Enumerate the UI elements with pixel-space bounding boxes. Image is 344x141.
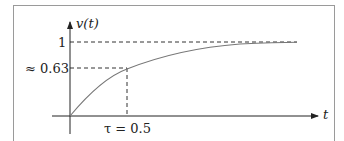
x-axis-label: t (323, 107, 329, 122)
y-axis-label: v(t) (76, 16, 99, 31)
response-curve (70, 42, 297, 116)
tau-label: τ = 0.5 (104, 121, 151, 136)
exponential-rise-chart: v(t) t 1 ≈ 0.63 τ = 0.5 (0, 0, 344, 141)
y-tick-one: 1 (58, 35, 66, 50)
y-tick-063: ≈ 0.63 (25, 61, 69, 76)
